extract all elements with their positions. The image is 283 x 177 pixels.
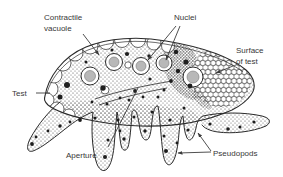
label-surface-of-test-line1: Surface	[236, 46, 264, 55]
label-contractile-vacuole-line2: vacuole	[44, 24, 72, 33]
pseudopods-leader-line	[198, 133, 211, 151]
diagram-canvas: Contractile vacuole Nuclei Surface of te…	[0, 0, 283, 177]
label-aperture: Aperture	[66, 151, 97, 160]
pseudopods-leader-line	[178, 152, 211, 153]
label-nuclei: Nuclei	[174, 13, 196, 22]
amoeba-diagram: Contractile vacuole Nuclei Surface of te…	[0, 0, 283, 177]
nucleus	[81, 67, 99, 85]
nucleus	[156, 55, 172, 71]
nucleus	[106, 54, 123, 71]
label-contractile-vacuole-line1: Contractile	[44, 13, 83, 22]
small-vesicle	[125, 62, 131, 68]
label-surface-of-test-line2: of test	[236, 57, 259, 66]
nucleus	[133, 58, 150, 75]
label-pseudopods: Pseudopods	[213, 149, 257, 158]
nucleus	[183, 67, 203, 87]
label-test: Test	[12, 89, 27, 98]
